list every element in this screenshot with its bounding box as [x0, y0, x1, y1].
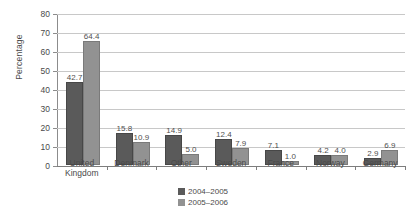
y-tick: [53, 90, 57, 91]
bar-value-label: 4.0: [335, 146, 346, 155]
legend-item[interactable]: 2004–2005: [178, 186, 228, 197]
bar-value-label: 14.9: [166, 126, 182, 135]
gridline: [57, 14, 405, 15]
legend-label: 2004–2005: [188, 187, 228, 196]
bar-value-label: 5.0: [185, 145, 196, 154]
bar-value-label: 12.4: [216, 130, 232, 139]
legend-item[interactable]: 2005–2006: [178, 197, 228, 208]
gridline: [57, 52, 405, 53]
bar-value-label: 4.2: [318, 146, 329, 155]
x-axis-label: Other: [156, 158, 206, 168]
legend-label: 2005–2006: [188, 198, 228, 207]
gridline: [57, 128, 405, 129]
bar-value-label: 6.9: [384, 141, 395, 150]
gridline: [57, 33, 405, 34]
bar[interactable]: 42.7: [66, 82, 83, 165]
plot-area: 01020304050607080 42.764.415.810.914.95.…: [57, 14, 405, 166]
x-axis-label: France: [256, 158, 306, 168]
y-tick: [53, 128, 57, 129]
x-tick: [405, 166, 406, 170]
x-axis-label: Norway: [306, 158, 356, 168]
x-axis-label: Sweden: [206, 158, 256, 168]
y-tick: [53, 33, 57, 34]
bar-value-label: 2.9: [367, 149, 378, 158]
legend: 2004–20052005–2006: [178, 186, 228, 208]
gridline: [57, 109, 405, 110]
bar-value-label: 10.9: [134, 133, 150, 142]
bar[interactable]: 64.4: [83, 41, 100, 165]
y-tick-label: 50: [41, 66, 50, 76]
x-axis-label: Germany: [355, 158, 405, 168]
bar-value-label: 42.7: [67, 73, 83, 82]
y-tick: [53, 14, 57, 15]
y-tick: [53, 71, 57, 72]
x-axis-label: United Kingdom: [57, 158, 107, 178]
bar-group: 42.764.4: [66, 41, 100, 165]
y-tick-label: 10: [41, 142, 50, 152]
gridline: [57, 90, 405, 91]
x-axis-label: Denmark: [107, 158, 157, 168]
y-tick: [53, 147, 57, 148]
y-tick-label: 30: [41, 104, 50, 114]
legend-swatch: [178, 188, 185, 195]
y-tick: [53, 109, 57, 110]
bar-value-label: 7.1: [268, 141, 279, 150]
y-tick-label: 70: [41, 28, 50, 38]
gridline: [57, 71, 405, 72]
y-tick: [53, 52, 57, 53]
bar-value-label: 64.4: [84, 32, 100, 41]
bar-value-label: 7.9: [235, 139, 246, 148]
bar-value-label: 15.8: [117, 124, 133, 133]
y-tick-label: 20: [41, 123, 50, 133]
y-tick-label: 0: [45, 161, 50, 171]
legend-swatch: [178, 199, 185, 206]
y-tick-label: 60: [41, 47, 50, 57]
y-tick-label: 40: [41, 85, 50, 95]
bar-chart: Percentage 01020304050607080 42.764.415.…: [0, 0, 412, 218]
y-tick-label: 80: [41, 9, 50, 19]
y-axis-title: Percentage: [14, 2, 24, 112]
